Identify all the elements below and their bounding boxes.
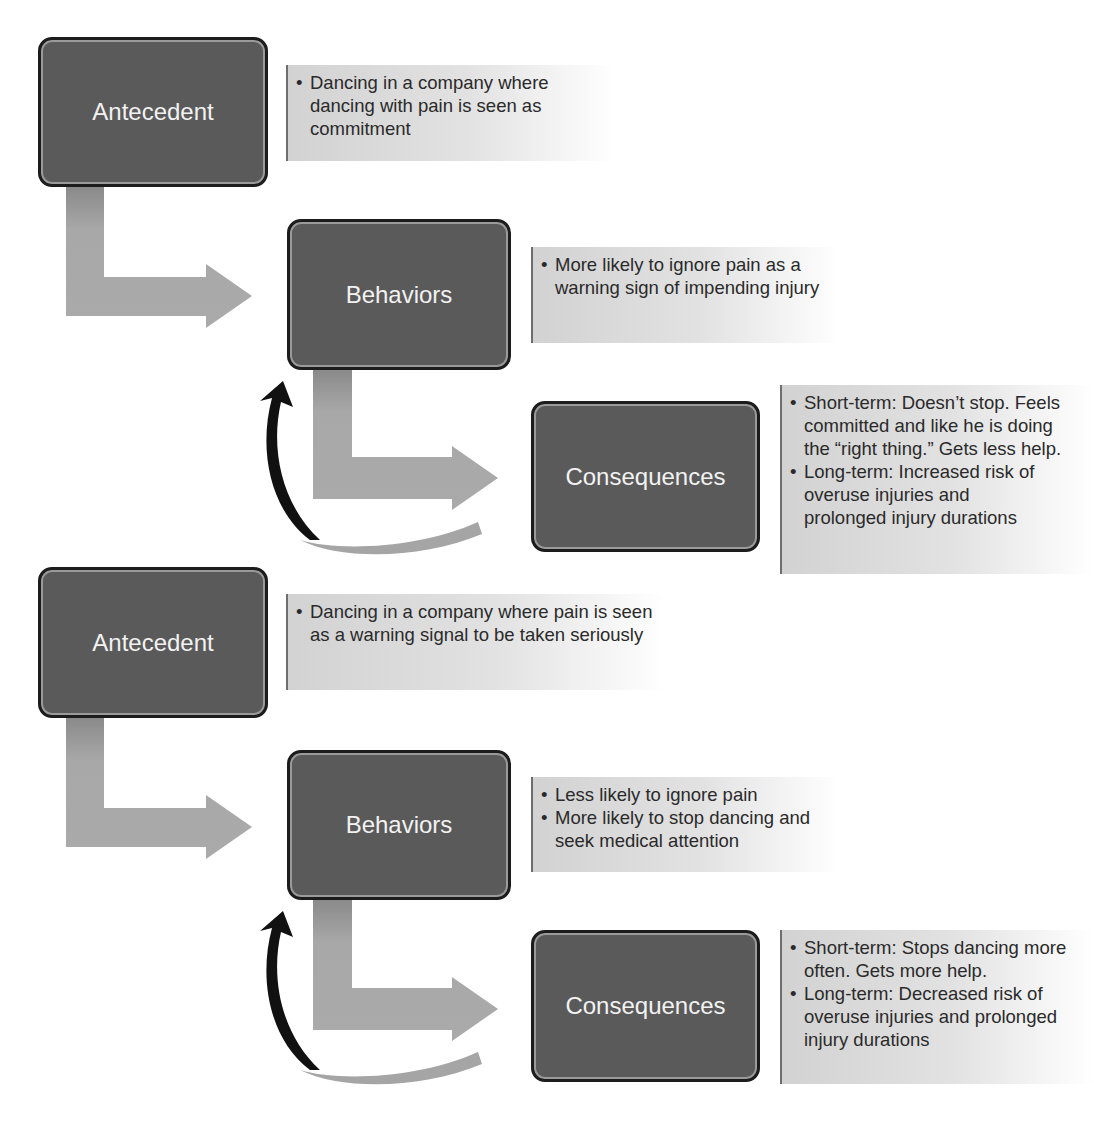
antecedent-label-2: Antecedent: [92, 629, 213, 657]
antecedent-note-1: Dancing in a company where dancing with …: [286, 65, 616, 161]
behaviors-label-2: Behaviors: [346, 811, 453, 839]
flow-arrow-behaviors-to-consequences-1: [313, 370, 498, 510]
note-bullet: Dancing in a company where dancing with …: [296, 71, 580, 140]
behaviors-note-2: Less likely to ignore pain More likely t…: [531, 777, 841, 872]
note-bullet: Dancing in a company where pain is seen …: [296, 600, 655, 646]
antecedent-label-1: Antecedent: [92, 98, 213, 126]
antecedent-box-2: Antecedent: [38, 567, 268, 718]
consequences-note-1: Short-term: Doesn’t stop. Feels committe…: [780, 385, 1094, 574]
flow-arrow-behaviors-to-consequences-2: [313, 900, 498, 1041]
consequences-label-1: Consequences: [565, 463, 725, 491]
note-bullet: More likely to stop dancing and seek med…: [541, 806, 830, 852]
consequences-box-2: Consequences: [531, 930, 760, 1082]
antecedent-note-2: Dancing in a company where pain is seen …: [286, 594, 666, 690]
note-bullet: Short-term: Doesn’t stop. Feels committe…: [790, 391, 1074, 460]
behaviors-box-2: Behaviors: [287, 750, 511, 900]
behaviors-note-1: More likely to ignore pain as a warning …: [531, 247, 841, 343]
behaviors-box-1: Behaviors: [287, 219, 511, 370]
note-bullet: Long-term: Increased risk of overuse inj…: [790, 460, 1054, 529]
consequences-note-2: Short-term: Stops dancing more often. Ge…: [780, 930, 1094, 1084]
behaviors-label-1: Behaviors: [346, 281, 453, 309]
antecedent-box-1: Antecedent: [38, 37, 268, 187]
consequences-label-2: Consequences: [565, 992, 725, 1020]
flow-arrow-antecedent-to-behaviors-1: [66, 187, 252, 328]
note-bullet: More likely to ignore pain as a warning …: [541, 253, 825, 299]
consequences-box-1: Consequences: [531, 401, 760, 552]
note-bullet: Long-term: Decreased risk of overuse inj…: [790, 982, 1059, 1051]
note-bullet: Short-term: Stops dancing more often. Ge…: [790, 936, 1069, 982]
flow-arrow-antecedent-to-behaviors-2: [66, 718, 252, 859]
note-bullet: Less likely to ignore pain: [541, 783, 830, 806]
